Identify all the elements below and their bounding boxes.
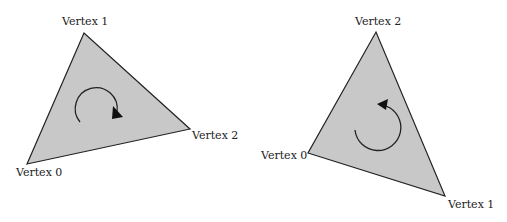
left-vertex-0-label: Vertex 0 (16, 167, 62, 179)
right-vertex-2-label: Vertex 2 (355, 16, 401, 28)
right-vertex-0-label: Vertex 0 (261, 150, 307, 162)
left-vertex-2-label: Vertex 2 (192, 130, 238, 142)
diagram-canvas (0, 0, 507, 222)
right-vertex-1-label: Vertex 1 (448, 199, 494, 211)
triangle-counter-clockwise (308, 32, 445, 196)
left-vertex-1-label: Vertex 1 (62, 16, 108, 28)
triangle-clockwise (27, 33, 190, 164)
winding-order-diagram: Vertex 1 Vertex 2 Vertex 0 Vertex 2 Vert… (0, 0, 507, 222)
